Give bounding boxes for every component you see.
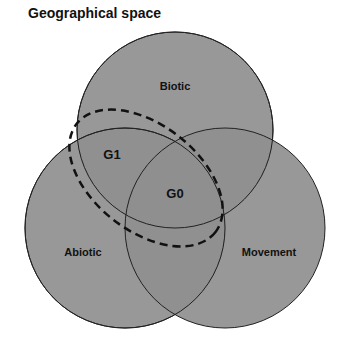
label-abiotic: Abiotic <box>64 246 101 258</box>
label-g1: G1 <box>103 147 120 162</box>
venn-diagram: Biotic Abiotic Movement G1 G0 <box>0 0 342 349</box>
label-movement: Movement <box>242 246 297 258</box>
label-g0: G0 <box>166 186 183 201</box>
label-biotic: Biotic <box>160 80 191 92</box>
